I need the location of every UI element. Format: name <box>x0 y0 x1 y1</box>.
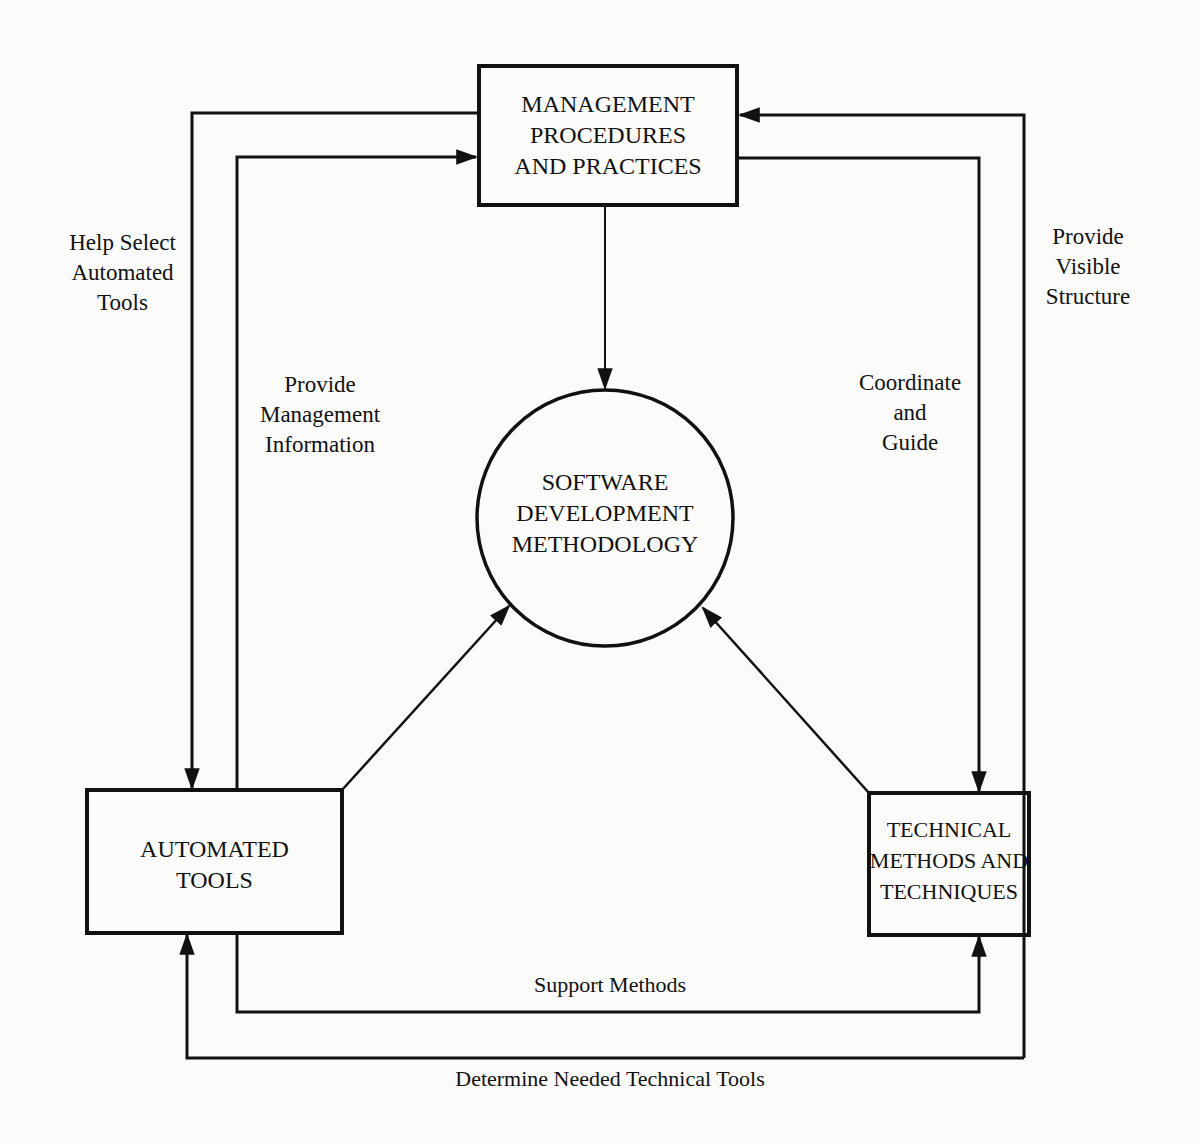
label-support-methods: Support Methods <box>460 970 760 1000</box>
edge-tools-methodology <box>342 606 509 790</box>
label-coordinate-guide: Coordinate and Guide <box>835 368 985 458</box>
techniques-label: TECHNICAL METHODS AND TECHNIQUES <box>869 810 1029 910</box>
edge-techniques-methodology <box>703 608 869 793</box>
edge-provide-visible-structure <box>740 115 1024 1058</box>
label-determine-tools: Determine Needed Technical Tools <box>380 1064 840 1094</box>
edge-provide-mgmt-info <box>237 157 476 790</box>
label-provide-visible-structure: Provide Visible Structure <box>1028 222 1148 312</box>
label-help-select: Help Select Automated Tools <box>50 228 195 318</box>
tools-label: AUTOMATED TOOLS <box>87 830 342 900</box>
management-label: MANAGEMENT PROCEDURES AND PRACTICES <box>479 66 737 205</box>
methodology-label: SOFTWARE DEVELOPMENT METHODOLOGY <box>477 448 733 578</box>
label-provide-mgmt-info: Provide Management Information <box>240 370 400 460</box>
edge-coordinate-guide <box>738 158 979 791</box>
